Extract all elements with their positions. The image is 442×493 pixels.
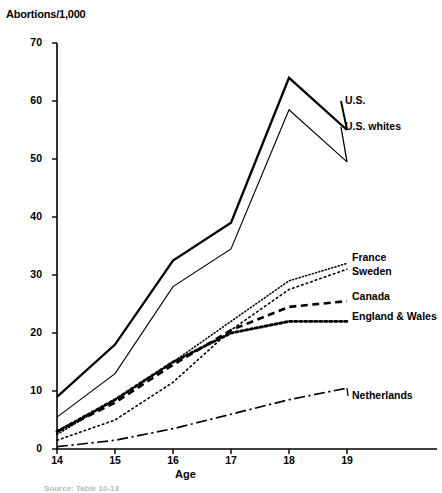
series-line-netherlands	[57, 388, 347, 447]
source-note: Source: Table 10-13	[44, 484, 119, 493]
leader-line-netherlands	[347, 388, 348, 396]
label-leader-lines	[341, 101, 348, 396]
series-label-us: U.S.	[345, 94, 365, 106]
abortion-rate-line-chart: Abortions/1,000 70 60 50 40 30 20 10 0 1…	[0, 0, 442, 493]
series-line-sweden	[57, 269, 347, 440]
series-label-france: France	[352, 251, 386, 263]
series-label-england-wales: England & Wales	[352, 310, 437, 322]
series-label-sweden: Sweden	[352, 265, 392, 277]
series-line-england-wales	[57, 321, 347, 431]
series-line-u-s-whites	[57, 110, 347, 417]
series-label-canada: Canada	[352, 290, 390, 302]
series-lines	[57, 78, 347, 447]
series-label-us-whites: U.S. whites	[345, 120, 401, 132]
series-label-netherlands: Netherlands	[352, 389, 413, 401]
plot-area	[0, 0, 442, 493]
